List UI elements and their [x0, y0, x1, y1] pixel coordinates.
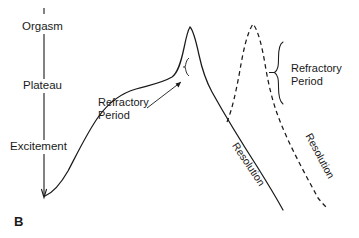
refractory-leader-arrowhead	[176, 82, 182, 88]
dashed-response-curve	[227, 24, 326, 207]
second-refractory-brace	[275, 42, 284, 104]
axis-label-orgasm: Orgasm	[20, 20, 65, 34]
solid-response-curve	[45, 27, 283, 210]
refractory-leader-line	[147, 82, 181, 108]
refractory-first-line1: Refractory	[98, 96, 149, 109]
panel-label: B	[14, 214, 23, 229]
axis-label-excitement: Excitement	[8, 140, 69, 154]
first-refractory-bracket	[183, 58, 189, 76]
refractory-second-line1: Refractory	[291, 62, 342, 75]
refractory-second-line2: Period	[291, 75, 342, 88]
refractory-period-label-first: Refractory Period	[98, 96, 149, 122]
response-cycle-figure: Orgasm Plateau Excitement Refractory Per…	[0, 0, 359, 238]
refractory-first-line2: Period	[98, 109, 149, 122]
refractory-period-label-second: Refractory Period	[291, 62, 342, 88]
phase-axis	[41, 8, 46, 198]
axis-label-plateau: Plateau	[21, 79, 64, 93]
figure-canvas	[0, 0, 359, 238]
